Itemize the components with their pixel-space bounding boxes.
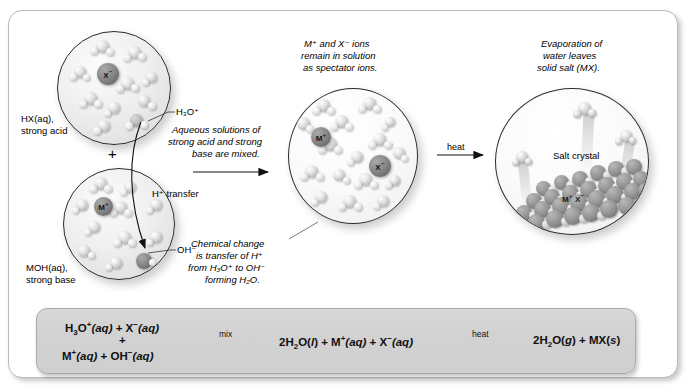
beaker-mixed-solution: M+ X− [288,88,418,224]
note-evaporation-line1: Evaporation of [541,38,602,50]
equation-left-line1: H3O+(aq) + X−(aq) [65,320,159,337]
equation-left-plus: + [119,334,126,346]
note-chemical-line2: is transfer of H⁺ [196,250,263,262]
crystal-ion-labels: M+ X− [562,193,584,204]
label-heat-arrow: heat [447,141,465,153]
equation-arrow1-label: mix [219,329,232,339]
note-chemical-line4: forming H₂O. [205,274,260,286]
note-spectator-line1: M⁺ and X⁻ ions [304,38,369,50]
note-spectator-line2: remain in solution [301,50,375,62]
cation-m: M+ [94,197,113,216]
note-chemical-line3: from H₃O⁺ to OH⁻ [188,262,265,274]
equation-arrow2-label: heat [472,329,489,339]
cation-m-label: M+ [98,201,109,212]
equation-right: 2H2O(g) + MX(s) [533,334,620,349]
anion-x-label: X− [103,69,112,80]
note-mix-line1: Aqueous solutions of [172,124,260,136]
equation-middle: 2H2O(l) + M+(aq) + X−(aq) [279,334,413,351]
note-mix-line3: base are mixed. [192,148,260,160]
salt-crystal-label: Salt crystal [553,150,599,162]
label-moh-line2: strong base [26,274,76,286]
plus-sign: + [108,145,117,162]
figure-canvas: X− M+ [0,0,687,386]
beaker-strong-acid: X− [57,31,171,145]
note-mix-line2: strong acid and strong [168,136,262,148]
label-hydronium: H₃O⁺ [176,106,199,118]
cation-m-mixed: M+ [311,127,331,147]
label-hx-line1: HX(aq), [21,113,54,125]
note-evaporation-line3: solid salt (MX). [537,62,600,74]
label-h-transfer: H⁺ transfer [152,188,199,200]
label-moh-line1: MOH(aq), [26,262,68,274]
vapor-trail [580,111,594,173]
note-spectator-line3: as spectator ions. [303,62,377,74]
anion-x: X− [97,63,119,85]
note-evaporation-line2: water leaves [543,50,596,62]
beaker-salt-crystal: M+ X− Salt crystal [495,88,649,235]
note-chemical-line1: Chemical change [191,238,264,250]
label-hx-line2: strong acid [21,125,67,137]
beaker-strong-base: M+ [63,168,175,280]
equation-left-line2: M+(aq) + OH−(aq) [62,348,153,362]
anion-x-mixed: X− [369,155,391,177]
